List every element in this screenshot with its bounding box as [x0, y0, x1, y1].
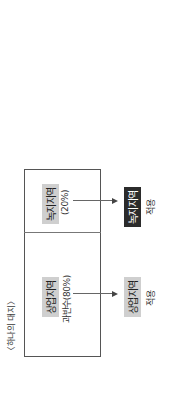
commercial-zone-label: 상업지역 [42, 277, 59, 317]
result-green-zone: 녹지지역 [124, 187, 141, 227]
diagram-caption: 〈하나의 대지〉 [4, 297, 16, 355]
arrow-line-commercial [73, 293, 112, 294]
arrow-head-icon [112, 291, 118, 297]
green-zone-label: 녹지지역 [42, 184, 59, 224]
commercial-zone-share: 과반수(80%) [60, 275, 73, 323]
result-commercial-zone: 상업지역 [124, 277, 141, 317]
zoning-diagram: 〈하나의 대지〉 상업지역 과반수(80%) 녹지지역 (20%) 상업지역 적… [0, 0, 178, 401]
lot-divider [24, 232, 101, 233]
arrow-head-icon [112, 198, 118, 204]
green-zone-share: (20%) [60, 190, 70, 215]
arrow-line-green [73, 200, 112, 201]
result-green-apply: 적용 [144, 200, 157, 215]
result-commercial-apply: 적용 [144, 291, 157, 306]
